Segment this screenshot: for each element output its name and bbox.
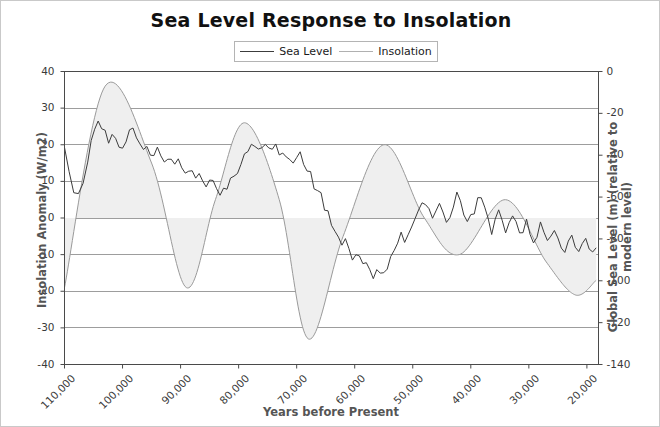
insolation-area <box>65 82 597 339</box>
insolation-fill <box>65 82 597 339</box>
y-axis-label-left: Insolation Anomaly (W/m2) <box>35 95 49 345</box>
y-tick-label-right: 0 <box>607 65 653 77</box>
plot-area <box>1 1 660 427</box>
y-tick-label-right: -140 <box>607 358 653 370</box>
y-tick-label-left: 40 <box>9 65 55 77</box>
y-tick-label-left: -40 <box>9 358 55 370</box>
x-axis-label: Years before Present <box>1 405 660 419</box>
y-axis-label-right: Global Sea Level (m) (relative to modern… <box>606 102 634 352</box>
chart-figure: Sea Level Response to Insolation Sea Lev… <box>0 0 660 427</box>
